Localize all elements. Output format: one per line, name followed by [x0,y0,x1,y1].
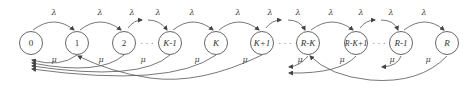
lambda-label: λ [154,8,160,17]
ellipsis: · · · [278,38,292,48]
state-node-K-1: K-1 [159,32,182,55]
mu-label: μ [242,55,247,64]
lambda-label: λ [357,8,363,17]
edge-2-0 [32,55,124,68]
edge-ellipsis-R-K [288,20,305,30]
node-label: R-K+1 [344,39,367,48]
edge-ellipsis-K-1 [148,20,167,30]
diagram-canvas: λ λ λ λ λ λ λ λ λ λ λ λ μ μ μ μ μ μ [0,0,474,87]
edge-ellipsis-R-1 [381,20,398,30]
forward-edges [33,20,444,30]
mu-label: μ [140,55,145,64]
node-label: 0 [29,38,34,48]
state-node-R-K: R-K [297,32,320,55]
state-node-K: K [205,32,228,55]
node-label: R [443,38,450,48]
backward-edges [32,55,447,81]
mu-label: μ [297,55,302,64]
lambda-label: λ [266,8,272,17]
lambda-label: λ [128,8,134,17]
edge-0-1 [33,22,74,30]
lambda-label: λ [188,8,194,17]
lambda-label: λ [96,8,102,17]
edge-R-K-R-K+1 [311,22,353,30]
state-node-K+1: K+1 [251,32,274,55]
mu-label: μ [389,55,394,64]
lambda-label: λ [387,8,393,17]
lambda-label: λ [420,8,426,17]
node-label: K+1 [253,38,271,48]
state-node-1: 1 [66,32,89,55]
node-label: K [212,38,220,48]
node-label: 1 [75,38,80,48]
edge-K-1-K [173,22,213,30]
lambda-label: λ [234,8,240,17]
node-label: R-K [300,38,316,48]
edge-K+1-ellipsis [266,20,281,28]
ellipsis: · · · [140,38,154,48]
edge-2-ellipsis [128,20,142,28]
state-node-R-1: R-1 [390,32,413,55]
lambda-label: λ [327,8,333,17]
ellipsis: · · · [372,38,386,48]
state-nodes: 0 1 2 K-1 K K+1 R-K R-K+1 [20,32,459,55]
edge-R-1-R [404,22,444,30]
mu-label: μ [425,55,430,64]
mu-labels: μ μ μ μ μ μ μ μ μ [51,55,430,64]
lambda-labels: λ λ λ λ λ λ λ λ λ λ λ λ [50,8,426,17]
state-node-R-K+1: R-K+1 [344,32,368,55]
state-node-0: 0 [20,32,43,55]
state-node-2: 2 [113,32,136,55]
edge-K-K+1 [219,22,259,30]
state-node-R: R [436,32,459,55]
mu-label: μ [339,55,344,64]
mu-label: μ [51,55,56,64]
mu-label: μ [98,55,103,64]
mu-label: μ [194,55,199,64]
edge-R-K+1-ellipsis [360,20,375,28]
node-label: R-1 [394,38,408,48]
state-transition-diagram: λ λ λ λ λ λ λ λ λ λ λ λ μ μ μ μ μ μ [0,0,474,87]
lambda-label: λ [50,8,56,17]
lambda-label: λ [294,8,300,17]
edge-1-2 [80,22,121,30]
node-label: 2 [122,38,127,48]
node-label: K-1 [162,38,177,48]
